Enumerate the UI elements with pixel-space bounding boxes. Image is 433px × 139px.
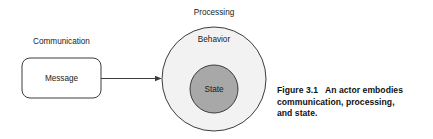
state-label: State xyxy=(204,85,224,94)
figure-caption: Figure 3.1 An actor embodies communicati… xyxy=(277,85,429,120)
caption-line-3: and state. xyxy=(277,108,429,120)
caption-line-2: communication, processing, xyxy=(277,97,429,109)
caption-line-1: Figure 3.1 An actor embodies xyxy=(277,85,429,97)
message-label: Message xyxy=(45,74,79,83)
figure-container: Communication Message Processing Behavio… xyxy=(0,0,433,139)
behavior-label: Behavior xyxy=(198,35,231,44)
communication-label: Communication xyxy=(33,37,90,46)
processing-label: Processing xyxy=(194,8,235,17)
